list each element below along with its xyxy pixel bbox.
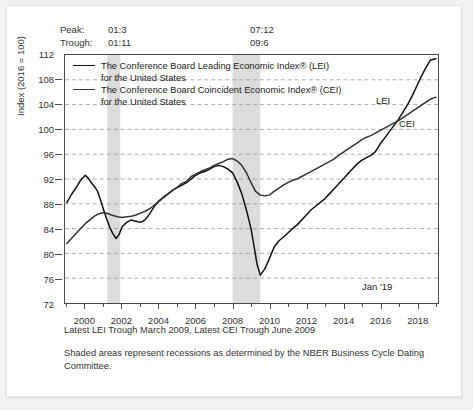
y-tick-label: 72 — [43, 299, 54, 310]
x-tick-mark-minor — [325, 304, 326, 307]
peak-value-2: 07:12 — [250, 23, 274, 36]
x-tick-mark — [381, 304, 382, 309]
y-tick-mark — [55, 279, 62, 280]
legend-entry-cei: The Conference Board Coincident Economic… — [73, 84, 403, 96]
footnote-trough: Latest LEI Trough March 2009, Latest CEI… — [64, 325, 315, 335]
y-tick-mark — [55, 154, 62, 155]
x-tick-mark-minor — [140, 304, 141, 307]
peak-value-1: 01:3 — [108, 23, 127, 36]
chart-legend: The Conference Board Leading Economic In… — [73, 60, 403, 108]
legend-entry-lei-sub: for the United States — [73, 72, 403, 84]
x-tick-label: 2014 — [333, 315, 354, 326]
x-tick-mark-minor — [66, 304, 67, 307]
y-tick-mark — [55, 79, 62, 80]
y-tick-label: 80 — [43, 249, 54, 260]
x-tick-mark-minor — [251, 304, 252, 307]
x-tick-mark — [233, 304, 234, 309]
x-tick-mark — [121, 304, 122, 309]
y-tick-mark — [55, 254, 62, 255]
y-tick-mark — [55, 104, 62, 105]
x-tick-mark-minor — [288, 304, 289, 307]
x-tick-mark — [270, 304, 271, 309]
footnote-recession: Shaded areas represent recessions as det… — [64, 347, 444, 373]
y-tick-label: 108 — [38, 74, 54, 85]
y-tick-label: 88 — [43, 199, 54, 210]
y-tick-label: 112 — [39, 49, 54, 60]
y-tick-mark — [55, 229, 62, 230]
x-tick-mark — [158, 304, 159, 309]
series-tag-lei: LEI — [376, 95, 390, 106]
x-tick-mark-minor — [103, 304, 104, 307]
y-tick-label: 100 — [38, 124, 54, 135]
x-axis: 2000200220042006200820102012201420162018 — [64, 304, 440, 326]
y-tick-label: 76 — [43, 274, 54, 285]
y-tick-mark — [55, 179, 62, 180]
x-tick-mark-minor — [399, 304, 400, 307]
trough-value-2: 09:6 — [250, 36, 269, 49]
x-tick-mark — [307, 304, 308, 309]
x-tick-mark-minor — [214, 304, 215, 307]
legend-label-cei: The Conference Board Coincident Economic… — [101, 84, 341, 96]
y-tick-label: 104 — [38, 99, 54, 110]
last-point-label: Jan '19 — [362, 281, 392, 292]
legend-entry-lei: The Conference Board Leading Economic In… — [73, 60, 403, 72]
peak-label: Peak: — [60, 23, 108, 36]
x-tick-mark — [418, 304, 419, 309]
legend-label-lei: The Conference Board Leading Economic In… — [101, 60, 329, 72]
y-tick-mark — [55, 204, 62, 205]
trough-label: Trough: — [60, 36, 108, 49]
x-tick-mark — [84, 304, 85, 309]
y-axis-title: Index (2016 = 100) — [15, 36, 26, 116]
x-tick-mark-minor — [177, 304, 178, 307]
x-tick-mark — [344, 304, 345, 309]
x-tick-label: 2018 — [407, 315, 428, 326]
trough-row: Trough: 01:11 09:6 — [60, 36, 380, 49]
peak-row: Peak: 01:3 07:12 — [60, 23, 380, 36]
y-tick-label: 96 — [43, 149, 54, 160]
peak-trough-header: Peak: 01:3 07:12 Trough: 01:11 09:6 — [60, 23, 380, 53]
legend-swatch-cei — [73, 89, 95, 90]
x-tick-mark-minor — [436, 304, 437, 307]
legend-entry-cei-sub: for the United States — [73, 96, 403, 108]
y-tick-mark — [55, 129, 62, 130]
x-tick-mark — [195, 304, 196, 309]
y-tick-label: 92 — [43, 174, 54, 185]
x-tick-label: 2016 — [370, 315, 391, 326]
x-tick-mark-minor — [362, 304, 363, 307]
legend-sublabel-lei: for the United States — [101, 72, 186, 84]
chart-card: Peak: 01:3 07:12 Trough: 01:11 09:6 7276… — [6, 5, 462, 397]
legend-swatch-lei — [73, 65, 95, 66]
trough-value-1: 01:11 — [108, 36, 131, 49]
plot-area: The Conference Board Leading Economic In… — [64, 54, 439, 304]
y-tick-label: 84 — [43, 224, 54, 235]
series-tag-cei: CEI — [399, 118, 415, 129]
legend-sublabel-cei: for the United States — [101, 96, 186, 108]
